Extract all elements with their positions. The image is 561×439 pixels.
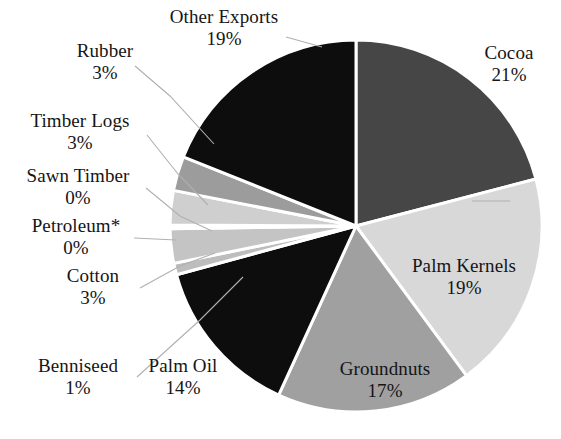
slice-label-name: Other Exports	[170, 6, 278, 28]
slice-label-percent: 17%	[340, 380, 431, 402]
slice-label-name: Sawn Timber	[27, 165, 130, 187]
slice-label-percent: 19%	[412, 277, 516, 299]
slice-label-petroleum: Petroleum* 0%	[32, 215, 121, 258]
slice-label-benniseed: Benniseed 1%	[38, 355, 118, 398]
leader-line-other-exports	[286, 37, 322, 47]
slice-label-palm-kernels: Palm Kernels 19%	[412, 255, 516, 298]
slice-label-percent: 3%	[67, 287, 119, 309]
slice-label-percent: 3%	[77, 62, 134, 84]
slice-label-timber-logs: Timber Logs 3%	[30, 110, 129, 153]
slice-label-name: Cocoa	[484, 42, 533, 64]
slice-label-name: Groundnuts	[340, 358, 431, 380]
slice-label-cotton: Cotton 3%	[67, 265, 119, 308]
slice-label-other-exports: Other Exports 19%	[170, 6, 278, 49]
slice-label-percent: 0%	[27, 187, 130, 209]
slice-label-palm-oil: Palm Oil 14%	[149, 355, 218, 398]
slice-label-groundnuts: Groundnuts 17%	[340, 358, 431, 401]
slice-label-percent: 0%	[32, 237, 121, 259]
slice-label-rubber: Rubber 3%	[77, 40, 134, 83]
slice-label-percent: 14%	[149, 377, 218, 399]
slice-label-name: Petroleum*	[32, 215, 121, 237]
slice-label-percent: 1%	[38, 377, 118, 399]
slice-label-name: Cotton	[67, 265, 119, 287]
slice-label-name: Benniseed	[38, 355, 118, 377]
slice-label-name: Palm Oil	[149, 355, 218, 377]
slice-label-percent: 3%	[30, 132, 129, 154]
slice-label-percent: 21%	[484, 64, 533, 86]
slice-label-name: Timber Logs	[30, 110, 129, 132]
slice-label-name: Palm Kernels	[412, 255, 516, 277]
slice-label-sawn-timber: Sawn Timber 0%	[27, 165, 130, 208]
slice-label-cocoa: Cocoa 21%	[484, 42, 533, 85]
slice-label-name: Rubber	[77, 40, 134, 62]
pie-slices-group	[170, 40, 542, 412]
slice-label-percent: 19%	[170, 28, 278, 50]
pie-chart: Other Exports 19% Rubber 3% Timber Logs …	[0, 0, 561, 439]
